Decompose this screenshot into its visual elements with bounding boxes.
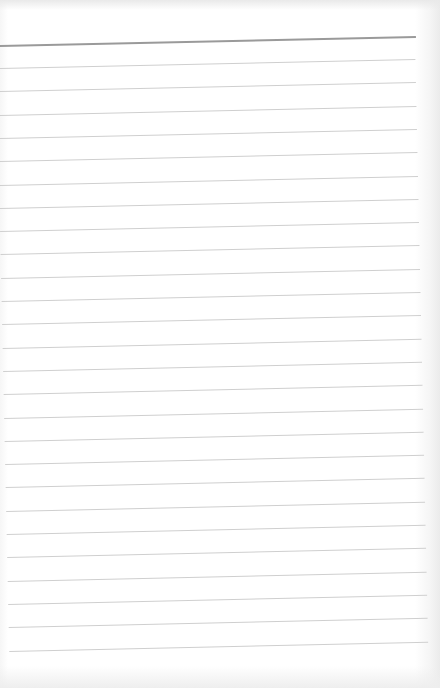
rule-line	[5, 455, 424, 465]
rule-line	[3, 339, 422, 349]
header-rule-line	[0, 36, 416, 47]
paper-bottom-edge	[0, 666, 440, 688]
rule-line	[4, 385, 423, 395]
rule-line	[7, 548, 426, 558]
rule-line	[6, 502, 425, 512]
rule-line	[6, 478, 425, 488]
rule-line	[0, 106, 416, 116]
rule-line	[2, 292, 421, 302]
rule-line	[5, 432, 424, 442]
rule-line	[9, 642, 428, 652]
rule-line	[0, 129, 417, 139]
rule-line	[9, 618, 428, 628]
rule-line	[1, 269, 420, 279]
rule-line	[8, 595, 427, 605]
lined-paper-page	[0, 0, 440, 688]
rule-line	[8, 572, 427, 582]
ruled-lines	[0, 0, 430, 688]
rule-line	[0, 59, 415, 69]
rule-line	[0, 199, 418, 209]
rule-line	[3, 362, 422, 372]
rule-line	[4, 409, 423, 419]
rule-line	[2, 315, 421, 325]
rule-line	[0, 222, 419, 232]
rule-line	[1, 245, 420, 255]
rule-line	[0, 152, 417, 162]
rule-line	[0, 82, 416, 92]
rule-line	[0, 176, 418, 186]
rule-line	[7, 525, 426, 535]
